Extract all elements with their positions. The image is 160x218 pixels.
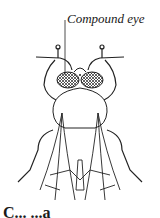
caption-partial: C... ...a	[3, 205, 51, 218]
diagram-stage: Compound eye C... ...a	[0, 0, 160, 218]
hind-legs	[18, 130, 142, 182]
label-compound-eye: Compound eye	[67, 12, 145, 26]
fly-illustration	[0, 0, 160, 218]
compound-eyes	[57, 68, 103, 88]
